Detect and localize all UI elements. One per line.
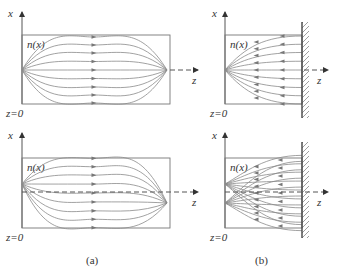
medium-label: n(x): [27, 38, 45, 51]
panel-a-top: x n(x) z z=0: [5, 7, 198, 119]
z-axis-label: z: [191, 74, 197, 86]
z-axis-label: z: [316, 196, 322, 208]
optics-diagram: x n(x) z z=0 x n(x) z z=0 x n(x) z z=0 (…: [0, 0, 338, 274]
x-axis-label: x: [211, 7, 217, 19]
x-axis-label: x: [7, 7, 13, 19]
z-axis-label: z: [316, 74, 322, 86]
panel-caption-b: (b): [255, 254, 268, 267]
z-axis-label: z: [191, 196, 197, 208]
medium-label: n(x): [27, 161, 45, 174]
panel-a-bottom: x n(x) z z=0 (a): [5, 129, 198, 267]
mirror-hatch-icon: [302, 142, 309, 238]
origin-label: z=0: [5, 107, 24, 119]
panel-b-bottom: x n(x) z z=0 (b): [209, 129, 328, 267]
origin-label: z=0: [209, 107, 228, 119]
origin-label: z=0: [5, 231, 24, 243]
panel-b-top: x n(x) z z=0: [209, 7, 328, 119]
x-axis-label: x: [7, 129, 13, 141]
x-axis-label: x: [211, 129, 217, 141]
panel-caption-a: (a): [86, 254, 99, 267]
medium-label: n(x): [230, 38, 248, 51]
origin-label: z=0: [209, 231, 228, 243]
